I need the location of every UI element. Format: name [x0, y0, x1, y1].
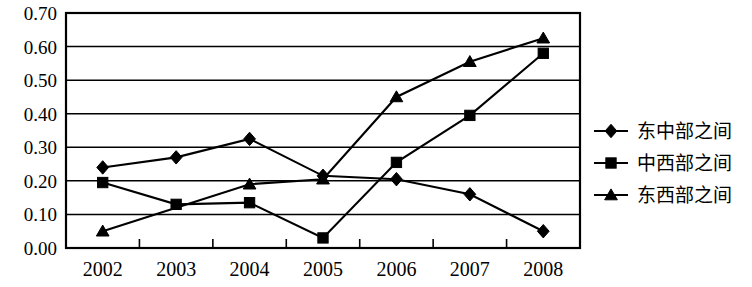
x-axis-tick-label: 2006	[376, 258, 416, 280]
data-point-marker-square	[98, 177, 108, 187]
x-axis-tick-label: 2008	[523, 258, 563, 280]
x-axis-tick-label: 2007	[450, 258, 490, 280]
data-point-marker-square	[244, 198, 254, 208]
legend-label: 东中部之间	[637, 121, 732, 142]
x-axis-tick-label: 2002	[83, 258, 123, 280]
data-point-marker-square	[171, 199, 181, 209]
y-axis-tick-label: 0.00	[24, 238, 57, 259]
data-point-marker-square	[318, 233, 328, 243]
data-point-marker-square	[391, 157, 401, 167]
x-axis-tick-label: 2004	[230, 258, 270, 280]
x-axis-tick-label: 2005	[303, 258, 343, 280]
legend-label: 中西部之间	[637, 153, 732, 174]
y-axis-tick-label: 0.70	[24, 3, 57, 24]
x-axis-tick-label: 2003	[156, 258, 196, 280]
y-axis-tick-label: 0.20	[24, 171, 57, 192]
line-chart: 0.700.600.500.400.300.200.100.00 2002200…	[0, 0, 752, 287]
chart-background	[0, 0, 752, 287]
data-point-marker-square	[465, 110, 475, 120]
y-axis-tick-label: 0.50	[24, 70, 57, 91]
y-axis-tick-label: 0.60	[24, 37, 57, 58]
data-point-marker-square	[538, 48, 548, 58]
chart-canvas: 0.700.600.500.400.300.200.100.00 2002200…	[0, 0, 752, 287]
data-point-marker-square	[606, 158, 616, 168]
y-axis-tick-label: 0.30	[24, 137, 57, 158]
y-axis-tick-label: 0.10	[24, 204, 57, 225]
y-axis-tick-label: 0.40	[24, 104, 57, 125]
legend-label: 东西部之间	[637, 185, 732, 206]
